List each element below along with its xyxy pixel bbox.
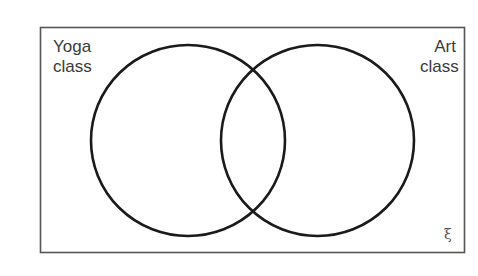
yoga-class-circle [91,45,285,236]
art-class-label-line-2: class [420,57,456,77]
yoga-class-label: Yoga class [53,37,92,77]
yoga-class-label-line-2: class [53,57,92,77]
art-class-circle [221,45,414,236]
art-class-label: Art class [420,37,456,77]
universal-set-box [41,28,465,253]
art-class-label-line-1: Art [420,37,456,57]
yoga-class-label-line-1: Yoga [53,37,92,57]
universal-set-symbol: ξ [444,226,452,242]
